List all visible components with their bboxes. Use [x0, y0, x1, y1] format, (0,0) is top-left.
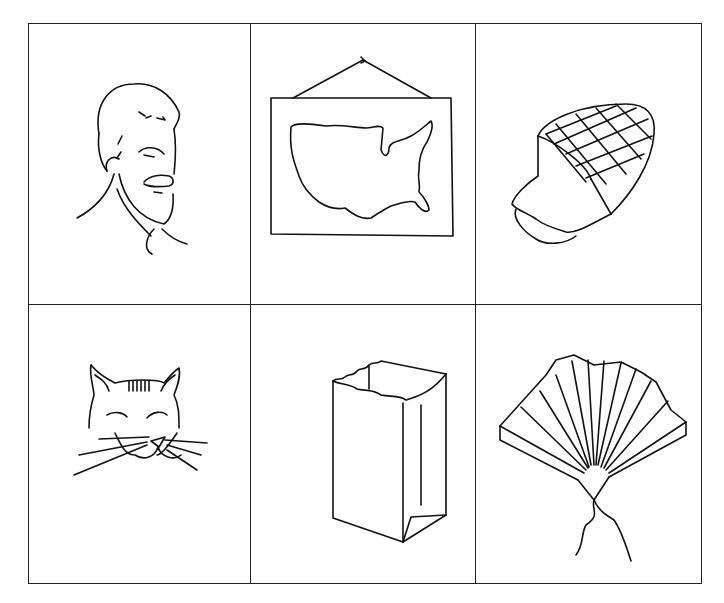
paper-bag-icon — [251, 305, 475, 585]
cell-ham[interactable]: ham — [476, 24, 703, 304]
man-face-icon — [29, 24, 250, 304]
cell-man[interactable]: man — [29, 24, 250, 304]
cell-cat[interactable]: cat — [29, 305, 250, 585]
cell-bag[interactable]: bag — [251, 305, 475, 585]
cell-map[interactable]: map — [251, 24, 475, 304]
cell-fan[interactable]: fan — [476, 305, 703, 585]
ham-icon — [476, 24, 703, 304]
us-map-icon — [251, 24, 475, 304]
cat-face-icon — [29, 305, 250, 585]
folding-fan-icon — [476, 305, 703, 585]
picture-grid: man map ham — [28, 23, 702, 584]
